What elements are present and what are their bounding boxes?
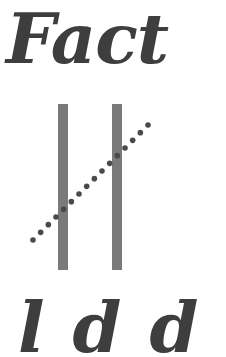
vertical-bar-2: [112, 104, 122, 270]
dot: [53, 214, 59, 220]
dot: [122, 145, 128, 151]
dot: [99, 168, 105, 174]
vertical-bar-1: [58, 104, 68, 270]
dot: [138, 130, 144, 136]
dot: [38, 230, 44, 236]
vertical-bars: [58, 104, 122, 270]
cropped-bottom-text: ldd: [18, 283, 226, 357]
dot: [115, 153, 121, 159]
dot: [145, 122, 151, 128]
dot: [130, 138, 136, 144]
dot: [107, 161, 113, 167]
dot: [30, 237, 36, 243]
dot: [84, 184, 90, 190]
dot: [46, 222, 52, 228]
dot: [69, 199, 75, 205]
dotted-transversal-line: [30, 122, 151, 243]
dot: [61, 207, 67, 213]
dot: [76, 191, 82, 197]
dot: [92, 176, 98, 182]
